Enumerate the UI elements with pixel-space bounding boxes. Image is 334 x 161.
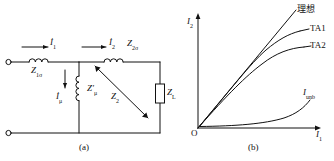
y-axis-arrow-icon: [196, 13, 201, 19]
curve-label-ta2: TA2: [310, 40, 326, 50]
curve-label-unbalance: Iunb: [303, 88, 315, 97]
terminal-dot-icon-bottom: [6, 130, 11, 135]
label-z2-sigma: Z2σ: [127, 39, 138, 48]
x-axis-label: I1: [316, 130, 322, 139]
y-axis-label: I2: [187, 17, 193, 26]
label-z1-sigma: Z1σ: [31, 66, 42, 75]
circuit-schematic: [0, 0, 180, 161]
label-z2: Z2: [111, 92, 119, 101]
curve-label-ta1: TA1: [310, 23, 326, 33]
resistor-box-icon-zl: [156, 84, 165, 103]
terminal-dot-icon-top: [6, 59, 11, 64]
label-z-mu: Z′μ: [87, 84, 97, 93]
series-line-ta1: [198, 31, 300, 128]
caption-panel-b: (b): [248, 142, 259, 152]
current-arrow-head-imu: [63, 83, 67, 88]
label-i1: İ1: [50, 38, 56, 47]
panel-a-equivalent-circuit: İ1 Z1σ İ2 Z2σ İμ Z′μ Z2 ZL (a): [0, 0, 180, 161]
leader-line-ta1: [300, 29, 309, 31]
figure-container: İ1 Z1σ İ2 Z2σ İμ Z′μ Z2 ZL (a): [0, 0, 334, 161]
label-i-mu: İμ: [56, 92, 62, 101]
label-zl: ZL: [167, 88, 176, 97]
series-line-unbalance: [200, 100, 310, 127]
inductor-coil-icon-z2s: [104, 59, 123, 62]
current-arrow-head-i1: [43, 45, 48, 49]
panel-b-characteristic-chart: I2 O I1 理想 TA1 TA2 Iunb (b): [180, 0, 334, 161]
current-arrow-head-i2: [101, 45, 106, 49]
pointer-arrow-icon-z2: [95, 66, 148, 118]
inductor-coil-icon-zmu: [76, 76, 79, 101]
curve-label-ideal: 理想: [297, 2, 315, 15]
inductor-coil-icon-z1: [29, 59, 48, 62]
label-i2: İ2: [109, 38, 115, 47]
caption-panel-a: (a): [79, 142, 89, 152]
series-line-ta2: [198, 47, 304, 128]
origin-label: O: [191, 128, 198, 138]
